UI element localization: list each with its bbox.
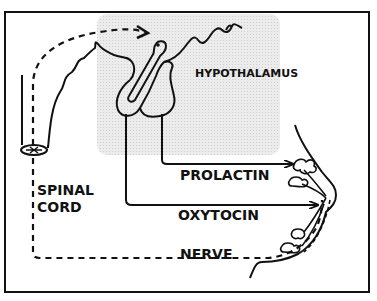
spinal-cord-label-line2: CORD: [37, 199, 94, 216]
spinal-cord-label: SPINAL CORD: [37, 182, 94, 216]
spinal-cord: [22, 75, 48, 148]
prolactin-label: PROLACTIN: [180, 168, 269, 182]
neuron-nucleus: [156, 43, 160, 47]
nerve-label: NERVE: [180, 247, 232, 261]
reflex-diagram: HYPOTHALAMUS SPINAL CORD PROLACTIN OXYTO…: [0, 0, 377, 301]
hypothalamus-label: HYPOTHALAMUS: [195, 68, 298, 79]
oxytocin-label: OXYTOCIN: [178, 208, 259, 222]
spinal-cord-label-line1: SPINAL: [37, 182, 94, 199]
